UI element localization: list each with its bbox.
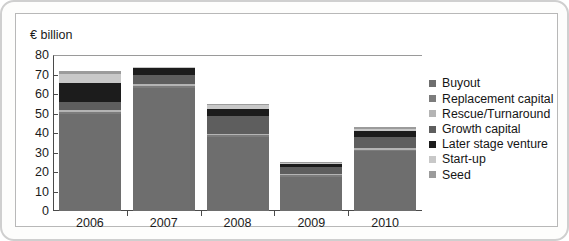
legend-swatch-icon	[429, 156, 436, 163]
bar-segment	[207, 109, 269, 116]
x-axis-tick-label: 2008	[198, 216, 278, 230]
y-axis-tick-mark	[53, 75, 58, 76]
y-axis-unit-label: € billion	[30, 28, 72, 42]
stacked-bar[interactable]	[280, 162, 342, 211]
x-axis-tick-label: 2006	[50, 216, 130, 230]
legend-item[interactable]: Growth capital	[429, 122, 561, 137]
bar-segment	[207, 116, 269, 134]
bar-segment	[59, 102, 121, 110]
y-axis-tick-mark	[53, 192, 58, 193]
legend-item-label: Seed	[442, 169, 471, 181]
x-axis-tick-label: 2009	[271, 216, 351, 230]
legend-item-label: Start-up	[442, 153, 486, 165]
y-axis-tick-label: 10	[35, 185, 49, 199]
bar-segment	[133, 88, 195, 211]
legend-item-label: Rescue/Turnaround	[442, 108, 550, 120]
y-axis-tick-label: 20	[35, 165, 49, 179]
y-axis-tick-label: 40	[35, 126, 49, 140]
legend-swatch-icon	[429, 126, 436, 133]
bar-segment	[59, 114, 121, 211]
y-axis-tick-label: 50	[35, 107, 49, 121]
bar-group-2010[interactable]	[354, 55, 416, 211]
legend-swatch-icon	[429, 95, 436, 102]
legend-item-label: Growth capital	[442, 123, 521, 135]
x-axis-tick-mark	[274, 211, 275, 216]
bar-group-2006[interactable]	[59, 55, 121, 211]
x-axis-tick-label: 2010	[345, 216, 425, 230]
stacked-bar[interactable]	[207, 104, 269, 211]
bar-group-2008[interactable]	[207, 55, 269, 211]
bar-segment	[280, 177, 342, 211]
bar-segment	[354, 137, 416, 149]
legend-item[interactable]: Rescue/Turnaround	[429, 106, 561, 121]
bar-group-2007[interactable]	[133, 55, 195, 211]
stacked-bar[interactable]	[354, 127, 416, 211]
legend-item-label: Buyout	[442, 77, 480, 89]
y-axis-tick-mark	[53, 133, 58, 134]
stacked-bar[interactable]	[133, 67, 195, 211]
y-axis-tick-mark	[53, 153, 58, 154]
y-axis-tick-mark	[53, 172, 58, 173]
y-axis-tick-label: 70	[35, 68, 49, 82]
bar-segment	[133, 75, 195, 84]
legend-swatch-icon	[429, 110, 436, 117]
y-axis-tick-label: 0	[42, 204, 49, 218]
bar-segment	[280, 167, 342, 174]
bar-segment	[59, 74, 121, 84]
x-axis-tick-mark	[201, 211, 202, 216]
x-axis-tick-mark	[348, 211, 349, 216]
legend-item[interactable]: Start-up	[429, 152, 561, 167]
y-axis-tick-label: 80	[35, 48, 49, 62]
y-axis-tick-labels: 80706050403020100	[18, 55, 49, 211]
legend-item[interactable]: Later stage venture	[429, 137, 561, 152]
legend-item[interactable]: Buyout	[429, 76, 561, 91]
chart-legend: BuyoutReplacement capitalRescue/Turnarou…	[429, 76, 561, 182]
bar-segment	[207, 137, 269, 211]
bar-group-2009[interactable]	[280, 55, 342, 211]
bar-segment	[354, 151, 416, 210]
legend-swatch-icon	[429, 171, 436, 178]
legend-item[interactable]: Replacement capital	[429, 91, 561, 106]
legend-swatch-icon	[429, 141, 436, 148]
y-axis-tick-mark	[53, 94, 58, 95]
legend-item-label: Replacement capital	[442, 93, 553, 105]
legend-item[interactable]: Seed	[429, 167, 561, 182]
x-axis-tick-label: 2007	[124, 216, 204, 230]
y-axis-tick-label: 30	[35, 146, 49, 160]
y-axis-tick-label: 60	[35, 87, 49, 101]
legend-swatch-icon	[429, 80, 436, 87]
x-axis-tick-mark	[127, 211, 128, 216]
bar-segment	[59, 83, 121, 102]
stacked-bar[interactable]	[59, 71, 121, 211]
y-axis-tick-mark	[53, 114, 58, 115]
bar-segment	[133, 68, 195, 75]
legend-item-label: Later stage venture	[442, 138, 548, 150]
